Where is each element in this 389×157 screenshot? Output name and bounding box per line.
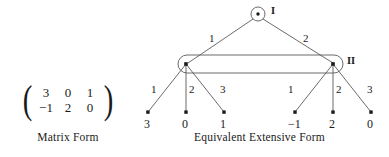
matrix-left-paren: ( xyxy=(23,84,33,117)
payoff-label-l2: 0 xyxy=(182,118,188,130)
matrix-grid: 3 0 1 −1 2 0 xyxy=(35,85,101,115)
edge-right-1 xyxy=(295,64,333,112)
terminal-node-l2 xyxy=(184,110,187,113)
player-one-label: I xyxy=(271,6,275,17)
terminal-node-r3 xyxy=(369,110,372,113)
matrix-cell-r1c3: 1 xyxy=(87,86,94,99)
game-theory-figure: ( 3 0 1 −1 2 0 ) Matrix Form xyxy=(0,0,389,157)
decision-node-left xyxy=(184,62,188,66)
matrix-cell-r1c1: 3 xyxy=(43,86,50,99)
edge-label-right-1: 1 xyxy=(288,84,294,95)
edge-label-left-2: 2 xyxy=(189,84,195,95)
edge-label-left-3: 3 xyxy=(220,84,226,95)
matrix-notation: ( 3 0 1 −1 2 0 ) xyxy=(21,84,116,117)
payoff-label-l1: 3 xyxy=(144,118,150,130)
payoff-label-r1: −1 xyxy=(288,118,301,130)
terminal-node-r1 xyxy=(293,110,296,113)
player-two-label: II xyxy=(347,56,355,67)
matrix-form-panel: ( 3 0 1 −1 2 0 ) xyxy=(8,84,128,117)
matrix-cell-r2c3: 0 xyxy=(87,101,94,114)
matrix-form-caption: Matrix Form xyxy=(8,131,128,143)
edge-label-right-3: 3 xyxy=(367,84,373,95)
decision-node-right xyxy=(331,62,335,66)
terminal-node-l1 xyxy=(146,110,149,113)
payoff-label-r3: 0 xyxy=(367,118,373,130)
edge-label-left-1: 1 xyxy=(151,84,157,95)
edge-label-right-2: 2 xyxy=(336,84,342,95)
edge-root-right xyxy=(263,19,333,63)
matrix-cell-r1c2: 0 xyxy=(65,86,72,99)
matrix-cell-r2c2: 2 xyxy=(65,101,72,114)
payoff-label-l3: 1 xyxy=(220,118,226,130)
edge-label-root-2: 2 xyxy=(303,33,309,44)
edge-root-left xyxy=(188,19,253,63)
terminal-node-l3 xyxy=(222,110,225,113)
payoff-label-r2: 2 xyxy=(329,118,335,130)
matrix-cell-r2c1: −1 xyxy=(39,101,53,114)
edge-label-root-1: 1 xyxy=(209,33,215,44)
matrix-right-paren: ) xyxy=(104,84,114,117)
extensive-form-caption: Equivalent Extensive Form xyxy=(130,131,389,143)
root-node-dot xyxy=(256,12,259,15)
extensive-form-panel: I II 1 2 1 2 3 1 2 3 3 0 1 −1 2 0 Equiva… xyxy=(130,0,389,157)
information-set-oval xyxy=(178,55,343,73)
terminal-node-r2 xyxy=(331,110,334,113)
